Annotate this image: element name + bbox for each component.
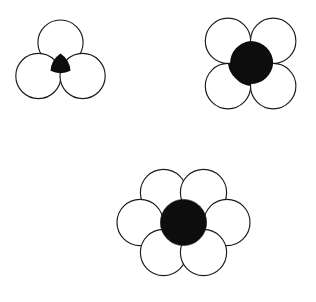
figure-trefoil <box>16 20 105 99</box>
figure-square <box>205 18 296 109</box>
circle-packing-diagram <box>0 0 316 302</box>
inscribed-dark-circle <box>241 54 260 73</box>
figure-hexagonal <box>117 169 250 275</box>
central-dark-circle <box>160 199 206 245</box>
